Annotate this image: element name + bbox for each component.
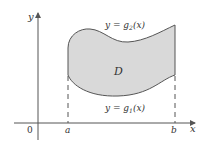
- tick-label-b: b: [171, 125, 177, 135]
- region-d: [68, 25, 175, 96]
- region-label: D: [113, 65, 123, 78]
- upper-curve-label: y = g2(x): [104, 20, 146, 31]
- origin-label: 0: [27, 125, 33, 135]
- y-axis-label: y: [27, 11, 34, 22]
- region-diagram: y x 0 a b D y = g2(x) y = g1(x): [0, 0, 207, 146]
- x-axis-label: x: [190, 123, 196, 134]
- tick-label-a: a: [65, 125, 70, 135]
- lower-curve-label: y = g1(x): [104, 103, 146, 114]
